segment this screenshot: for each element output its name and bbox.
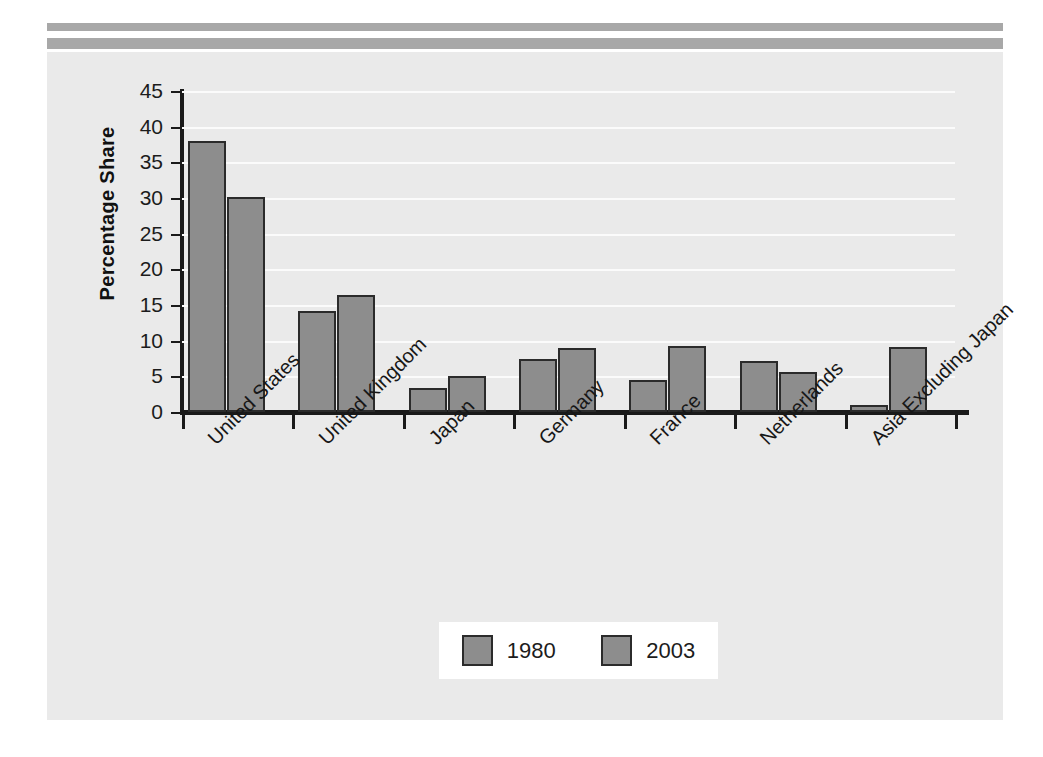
y-axis-tick <box>171 162 182 164</box>
bar <box>409 388 447 412</box>
chart-legend: 19802003 <box>439 622 718 679</box>
page-root: Percentage Share 051015202530354045 Unit… <box>0 0 1043 757</box>
y-axis-tick-label: 30 <box>123 187 163 208</box>
y-axis-tick-label: 25 <box>123 223 163 244</box>
y-axis-tick-label: 5 <box>123 365 163 386</box>
gridline <box>182 305 955 307</box>
gridline <box>182 127 955 129</box>
bar <box>298 311 336 412</box>
y-axis-tick-label-wrap: 25 <box>115 234 163 235</box>
legend-swatch <box>601 635 632 666</box>
y-axis-tick-label-wrap: 40 <box>115 127 163 128</box>
x-axis-tick <box>292 415 295 429</box>
y-axis-tick <box>171 305 182 307</box>
chart-panel: Percentage Share 051015202530354045 Unit… <box>47 52 1003 720</box>
gridline <box>182 198 955 200</box>
bar <box>519 359 557 413</box>
x-axis-tick <box>513 415 516 429</box>
y-axis-tick-label-wrap: 30 <box>115 198 163 199</box>
y-axis-tick-label-wrap: 15 <box>115 305 163 306</box>
y-axis-tick <box>171 91 182 93</box>
bar <box>850 405 888 412</box>
y-axis-tick <box>171 412 182 414</box>
y-axis-tick-label: 10 <box>123 330 163 351</box>
legend-entry[interactable]: 1980 <box>462 635 556 666</box>
gridline <box>182 91 955 93</box>
y-axis-tick <box>171 127 182 129</box>
y-axis-tick-label: 20 <box>123 258 163 279</box>
y-axis-tick-label: 45 <box>123 80 163 101</box>
y-axis-tick-label-wrap: 45 <box>115 91 163 92</box>
x-axis-tick <box>624 415 627 429</box>
y-axis-tick-label-wrap: 0 <box>115 412 163 413</box>
x-axis-tick <box>182 415 185 429</box>
y-axis-tick-label: 40 <box>123 116 163 137</box>
y-axis-title: Percentage Share <box>96 114 119 314</box>
x-axis-tick <box>845 415 848 429</box>
y-axis-tick-label-wrap: 20 <box>115 269 163 270</box>
legend-label: 1980 <box>507 640 556 662</box>
bar <box>740 361 778 412</box>
y-axis-tick <box>171 376 182 378</box>
gridline <box>182 234 955 236</box>
y-axis-tick-label-wrap: 5 <box>115 376 163 377</box>
legend-swatch <box>462 635 493 666</box>
y-axis-tick-label: 15 <box>123 294 163 315</box>
y-axis-tick <box>171 234 182 236</box>
y-axis-tick-label-wrap: 35 <box>115 162 163 163</box>
gridline <box>182 269 955 271</box>
y-axis-tick-label: 35 <box>123 151 163 172</box>
y-axis-tick-label: 0 <box>123 401 163 422</box>
x-axis-tick <box>734 415 737 429</box>
y-axis-tick <box>171 198 182 200</box>
y-axis-tick-label-wrap: 10 <box>115 341 163 342</box>
y-axis-tick <box>171 341 182 343</box>
x-axis-tick <box>955 415 958 429</box>
bar <box>188 141 226 412</box>
y-axis-tick <box>171 269 182 271</box>
x-axis-tick <box>403 415 406 429</box>
gridline <box>182 162 955 164</box>
bar <box>629 380 667 412</box>
header-rule-top <box>47 23 1003 31</box>
legend-label: 2003 <box>646 640 695 662</box>
legend-entry[interactable]: 2003 <box>601 635 695 666</box>
header-rule-second <box>47 38 1003 49</box>
